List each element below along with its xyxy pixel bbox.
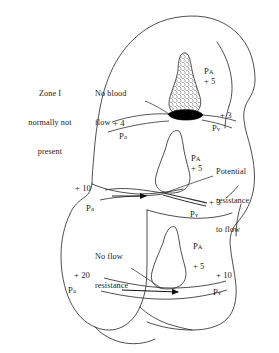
zone-1-group	[108, 53, 236, 132]
pa-label-zone-2: PA	[191, 153, 202, 163]
pa-label-zone-3: PA	[193, 241, 204, 251]
no-flow-resistance-label: No flow resistance	[95, 233, 128, 310]
lung-zones-figure: Zone I normally not present No blood flo…	[0, 0, 279, 353]
arterial-label-zone-1: Pa	[119, 131, 127, 141]
alveolus-zone-2	[155, 131, 190, 193]
arterial-value-zone-3: + 20	[74, 270, 90, 280]
pa-value-zone-1: + 5	[204, 76, 215, 86]
no-blood-flow-line1: No blood	[95, 89, 127, 99]
venous-label-zone-1: Pv	[212, 123, 220, 133]
venous-value-zone-3: + 10	[216, 270, 232, 280]
leader-potential-resistance	[165, 176, 213, 193]
arterial-value-zone-2: + 10	[75, 183, 91, 193]
venous-label-zone-3: Pv	[213, 287, 221, 297]
arterial-value-zone-1: + 4	[113, 118, 125, 128]
no-flow-resistance-line1: No flow	[95, 252, 128, 262]
zone-one-note-line3: present	[8, 147, 92, 157]
zone-one-note-line1: Zone I	[8, 89, 92, 99]
arterial-label-zone-2: Pa	[86, 203, 94, 213]
pa-value-zone-3: + 5	[193, 261, 204, 271]
flow-arrow-zone-3	[122, 290, 178, 292]
alveolus-zone-1	[169, 53, 201, 116]
alveolus-zone-3	[151, 227, 186, 289]
alveolar-pressure-zone-1: PA + 5	[204, 66, 215, 86]
pa-label-zone-1: PA	[204, 66, 215, 76]
arterial-label-zone-3: Pa	[68, 285, 76, 295]
venous-value-zone-2: + 3	[209, 197, 221, 207]
pa-value-zone-2: + 5	[191, 163, 202, 173]
leader-no-blood-flow	[145, 101, 169, 114]
alveolar-pressure-zone-2: PA + 5	[191, 153, 202, 173]
venous-value-zone-1: + 3	[220, 110, 232, 120]
potential-resistance-line1: Potential	[216, 167, 249, 177]
zone-one-note-line2: normally not	[8, 118, 92, 128]
potential-resistance-label: Potential resistance to flow	[216, 148, 249, 254]
alveolar-pressure-zone-3: PA + 5	[193, 241, 204, 271]
venous-label-zone-2: Pv	[190, 209, 198, 219]
zone-one-note: Zone I normally not present	[8, 70, 92, 176]
potential-resistance-line2: resistance	[216, 196, 249, 206]
potential-resistance-line3: to flow	[216, 225, 249, 235]
no-flow-resistance-line2: resistance	[95, 281, 128, 291]
capillary-zone-1-collapsed	[168, 110, 203, 120]
